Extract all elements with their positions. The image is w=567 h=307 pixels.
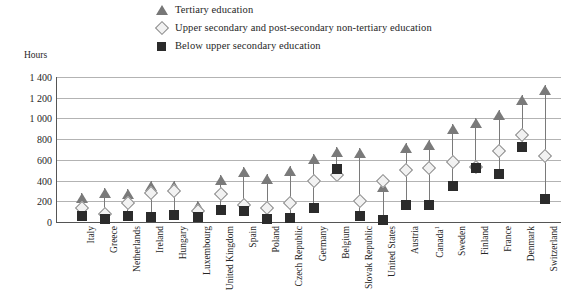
data-point-square bbox=[378, 215, 388, 225]
data-point-triangle bbox=[99, 188, 111, 198]
data-point-square bbox=[424, 200, 434, 210]
data-point-square bbox=[239, 206, 249, 216]
y-axis-line bbox=[56, 77, 57, 223]
data-point-square bbox=[100, 214, 110, 224]
x-axis-label: Czech Republic bbox=[294, 226, 304, 286]
data-point-triangle bbox=[470, 118, 482, 128]
data-point-square bbox=[540, 194, 550, 204]
y-tick-label: 1 200 bbox=[10, 92, 52, 103]
data-point-triangle bbox=[539, 85, 551, 95]
plot-region: ItalyGreeceNetherlandsIrelandHungaryLuxe… bbox=[56, 0, 561, 307]
data-point-triangle bbox=[354, 148, 366, 158]
data-point-square bbox=[471, 163, 481, 173]
footnote-marker: 1 bbox=[433, 226, 440, 229]
range-connector-line bbox=[545, 85, 546, 198]
data-point-triangle bbox=[447, 124, 459, 134]
data-point-diamond bbox=[283, 196, 297, 210]
x-axis-label: France bbox=[503, 226, 513, 252]
data-point-diamond bbox=[492, 143, 506, 157]
data-point-triangle bbox=[423, 140, 435, 150]
data-point-triangle bbox=[331, 147, 343, 157]
gridline bbox=[56, 118, 561, 119]
x-axis-label: Germany bbox=[318, 226, 328, 261]
y-axis-tick-labels: 02004006008001 0001 2001 400 bbox=[10, 0, 52, 307]
x-axis-label: Finland bbox=[480, 226, 490, 255]
x-axis-label: Belgium bbox=[341, 226, 351, 259]
data-point-square bbox=[146, 212, 156, 222]
data-point-diamond bbox=[399, 163, 413, 177]
y-tick-label: 1 000 bbox=[10, 113, 52, 124]
x-axis-label: Netherlands bbox=[132, 226, 142, 272]
x-axis-label: Denmark bbox=[526, 226, 536, 261]
y-tick-label: 200 bbox=[10, 196, 52, 207]
gridline bbox=[56, 98, 561, 99]
data-point-diamond bbox=[446, 155, 460, 169]
data-point-square bbox=[169, 210, 179, 220]
data-point-square bbox=[448, 181, 458, 191]
x-axis-label: Sweden bbox=[457, 226, 467, 256]
data-point-square bbox=[517, 142, 527, 152]
x-axis-label: Luxembourg bbox=[202, 226, 212, 275]
axis-baseline bbox=[56, 222, 561, 223]
data-point-square bbox=[77, 211, 87, 221]
data-point-triangle bbox=[238, 167, 250, 177]
x-axis-label: Switzerland bbox=[549, 226, 559, 271]
data-point-triangle bbox=[516, 95, 528, 105]
y-tick-label: 800 bbox=[10, 134, 52, 145]
data-point-triangle bbox=[261, 174, 273, 184]
x-axis-label: Canada1 bbox=[433, 226, 445, 258]
data-point-triangle bbox=[215, 175, 227, 185]
data-point-diamond bbox=[353, 194, 367, 208]
data-point-square bbox=[216, 205, 226, 215]
data-point-square bbox=[285, 213, 295, 223]
y-tick-label: 400 bbox=[10, 175, 52, 186]
x-axis-label: Italy bbox=[86, 226, 96, 243]
data-point-triangle bbox=[400, 143, 412, 153]
data-point-square bbox=[494, 169, 504, 179]
data-point-square bbox=[355, 211, 365, 221]
x-axis-label: Spain bbox=[248, 226, 258, 248]
x-axis-label: Austria bbox=[410, 226, 420, 254]
data-point-diamond bbox=[306, 173, 320, 187]
data-point-square bbox=[309, 203, 319, 213]
y-tick-label: 1 400 bbox=[10, 72, 52, 83]
data-point-triangle bbox=[284, 166, 296, 176]
data-point-square bbox=[401, 200, 411, 210]
data-point-triangle bbox=[493, 110, 505, 120]
x-axis-label: United Kingdom bbox=[225, 226, 235, 290]
data-point-triangle bbox=[308, 154, 320, 164]
x-axis-label: Poland bbox=[271, 226, 281, 252]
data-point-square bbox=[193, 212, 203, 222]
x-axis-label: Slovak Republic bbox=[364, 226, 374, 289]
x-axis-label: United States bbox=[387, 226, 397, 277]
chart-canvas: Hours 02004006008001 0001 2001 400 Italy… bbox=[0, 0, 567, 307]
data-point-square bbox=[262, 214, 272, 224]
gridline bbox=[56, 77, 561, 78]
data-point-square bbox=[332, 164, 342, 174]
y-tick-label: 0 bbox=[10, 217, 52, 228]
data-point-diamond bbox=[214, 186, 228, 200]
y-tick-label: 600 bbox=[10, 154, 52, 165]
data-point-diamond bbox=[422, 161, 436, 175]
x-axis-label: Greece bbox=[109, 226, 119, 253]
x-axis-label: Ireland bbox=[155, 226, 165, 253]
data-point-square bbox=[123, 211, 133, 221]
gridline bbox=[56, 139, 561, 140]
x-axis-label: Hungary bbox=[178, 226, 188, 259]
